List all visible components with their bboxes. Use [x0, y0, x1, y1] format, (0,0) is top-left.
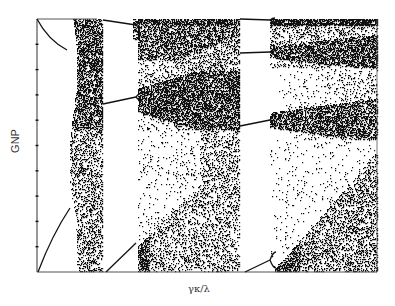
fixed-point-branch	[103, 97, 136, 104]
fixed-point-branch	[245, 260, 270, 272]
fixed-point-branch	[240, 52, 270, 53]
x-axis-label: γκ/λ	[188, 283, 210, 294]
fixed-point-branch	[38, 208, 70, 272]
bifurcation-figure: GNP γκ/λ	[0, 0, 395, 306]
y-axis-label-text: GNP	[9, 129, 21, 153]
fixed-point-branch	[106, 243, 136, 272]
fixed-point-branch	[240, 19, 270, 20]
fixed-point-branch	[240, 120, 270, 126]
fixed-point-branch	[37, 19, 67, 50]
chaotic-attractor-dots	[70, 19, 378, 272]
y-axis-label: GNP	[4, 126, 26, 156]
plot-area	[0, 0, 395, 306]
fixed-point-branch	[103, 20, 136, 25]
period-doubling-fork	[270, 252, 276, 268]
